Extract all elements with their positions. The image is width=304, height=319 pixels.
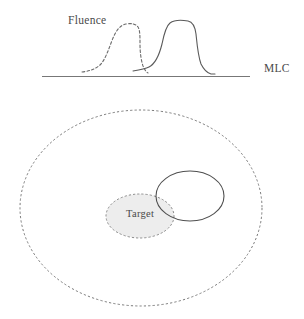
target-label: Target xyxy=(126,208,154,219)
aperture-ellipse xyxy=(156,171,224,221)
mlc-label: MLC xyxy=(264,62,290,74)
solid-fluence-curve xyxy=(133,20,215,74)
dashed-fluence-curve xyxy=(82,24,148,73)
fluence-label: Fluence xyxy=(68,14,107,26)
diagram-canvas xyxy=(0,0,304,319)
fluence-profile-panel xyxy=(42,20,250,76)
figure-root: Fluence MLC Target xyxy=(0,0,304,319)
